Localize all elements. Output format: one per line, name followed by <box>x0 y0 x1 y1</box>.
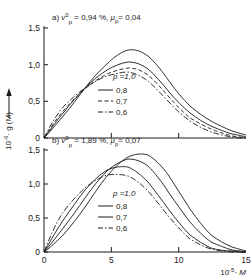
panel-b-legend-06: 0,6 <box>116 224 128 233</box>
figure-container: 10-6· g (M) 0 0,5 1,0 1,5 a) v0p = 0,94 … <box>0 0 252 280</box>
panel-b-ytick-15: 1,5 <box>28 145 40 155</box>
panel-b-curve-p07 <box>44 167 246 252</box>
panel-a-ytick-05: 0,5 <box>28 96 40 106</box>
panel-b-mu-value: = 0,07 <box>118 136 141 145</box>
panel-a-legend-08: 0,8 <box>116 86 128 95</box>
panel-b-ytick-0: 0 <box>35 247 40 257</box>
x-axis-ticklabels: 0 5 10 15 <box>42 255 251 265</box>
xtick-15: 15 <box>241 255 251 265</box>
panel-b: 0 0,5 1,0 1,5 b) v0p = 1,89 %, μp= 0,07 … <box>28 135 246 258</box>
panel-b-legend: p =1,0 0,8 0,7 0,6 <box>98 189 136 233</box>
panel-a-ytick-0: 0 <box>35 133 40 143</box>
panel-a: 0 0,5 1,0 1,5 a) v0p = 0,94 %, μp= 0,04 … <box>28 12 246 144</box>
panel-a-legend-p10: p =1,0 <box>112 72 136 81</box>
panel-b-ytick-05: 0,5 <box>28 213 40 223</box>
xtick-5: 5 <box>109 255 114 265</box>
panel-b-curve-p10 <box>44 154 246 252</box>
panel-b-title: b) v0p = 1,89 %, μp= 0,07 <box>52 135 141 148</box>
panel-a-v-value: = 0,94 %, <box>74 13 108 22</box>
panel-a-ytick-10: 1,0 <box>28 60 40 70</box>
panel-b-legend-p10: p =1,0 <box>112 189 136 198</box>
panel-a-legend-07: 0,7 <box>116 97 128 106</box>
panel-a-curve-p10 <box>44 50 246 138</box>
x-axis-title-rest: · M <box>234 268 246 277</box>
panel-a-legend: p =1,0 0,8 0,7 0,6 <box>98 72 136 117</box>
svg-text:10-6· g (M): 10-6· g (M) <box>3 112 13 150</box>
panel-b-ytick-10: 1,0 <box>28 179 40 189</box>
xtick-0: 0 <box>42 255 47 265</box>
panel-a-title: a) v0p = 0,94 %, μp= 0,04 <box>52 12 141 25</box>
panel-a-ytick-15: 1,5 <box>28 23 40 33</box>
panel-a-legend-06: 0,6 <box>116 108 128 117</box>
x-axis-title: 10-5· M <box>220 267 246 277</box>
panel-b-legend-08: 0,8 <box>116 202 128 211</box>
y-axis-title: 10-6· g (M) <box>3 88 13 150</box>
xtick-10: 10 <box>174 255 184 265</box>
panel-a-mu-value: = 0,04 <box>118 13 141 22</box>
panel-b-v-value: = 1,89 %, <box>74 136 108 145</box>
y-axis-arrow-icon <box>6 88 11 96</box>
panel-b-legend-07: 0,7 <box>116 213 128 222</box>
panel-a-v-sup: 0 <box>65 12 69 18</box>
